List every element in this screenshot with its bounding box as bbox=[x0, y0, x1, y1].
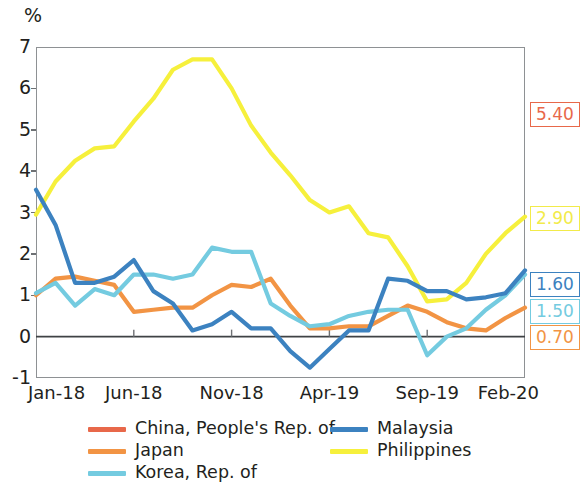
plot-area bbox=[36, 47, 525, 378]
legend-color-swatch bbox=[88, 427, 126, 432]
legend-color-swatch bbox=[330, 427, 368, 432]
chart-legend: China, People's Rep. ofJapanKorea, Rep. … bbox=[0, 418, 573, 483]
end-value-label: 5.40 bbox=[530, 102, 580, 127]
x-axis-tick-label: Jan-18 bbox=[28, 384, 85, 402]
series-line bbox=[36, 277, 525, 331]
legend-column-right: MalaysiaPhilippines bbox=[330, 418, 560, 462]
legend-item[interactable]: China, People's Rep. of bbox=[88, 418, 318, 440]
legend-item[interactable]: Japan bbox=[88, 440, 318, 462]
y-axis-tick-label: 1 bbox=[0, 285, 31, 304]
x-axis-tick-label: Sep-19 bbox=[396, 384, 459, 402]
series-line bbox=[36, 59, 525, 301]
legend-label: Korea, Rep. of bbox=[135, 464, 257, 482]
y-axis-tick-label: 2 bbox=[0, 244, 31, 263]
series-lines-svg bbox=[36, 47, 525, 378]
legend-color-swatch bbox=[330, 449, 368, 454]
legend-item[interactable]: Korea, Rep. of bbox=[88, 462, 318, 483]
end-value-label: 1.60 bbox=[530, 272, 580, 297]
legend-color-swatch bbox=[88, 471, 126, 476]
y-axis-tick-label: 4 bbox=[0, 161, 31, 180]
legend-label: Japan bbox=[135, 442, 184, 460]
y-axis-tick-label: 0 bbox=[0, 327, 31, 346]
y-axis-tick-label: 7 bbox=[0, 37, 31, 56]
y-axis-unit-label: % bbox=[24, 6, 42, 25]
series-line bbox=[36, 190, 525, 368]
y-axis-tick-label: 3 bbox=[0, 203, 31, 222]
x-axis-tick-label: Apr-19 bbox=[300, 384, 359, 402]
legend-label: Philippines bbox=[377, 442, 471, 460]
y-axis-tick-label: 6 bbox=[0, 78, 31, 97]
end-value-label: 2.90 bbox=[530, 206, 580, 231]
legend-label: Malaysia bbox=[377, 420, 453, 438]
legend-item[interactable]: Philippines bbox=[330, 440, 560, 462]
x-axis-tick-label: Nov-18 bbox=[200, 384, 264, 402]
legend-item[interactable]: Malaysia bbox=[330, 418, 560, 440]
end-value-label: 0.70 bbox=[530, 325, 580, 350]
legend-color-swatch bbox=[88, 449, 126, 454]
x-axis-tick-label: Jun-18 bbox=[105, 384, 163, 402]
legend-column-left: China, People's Rep. ofJapanKorea, Rep. … bbox=[88, 418, 318, 483]
end-value-label: 1.50 bbox=[530, 299, 580, 324]
x-axis-tick-label: Feb-20 bbox=[478, 384, 539, 402]
legend-label: China, People's Rep. of bbox=[135, 420, 335, 438]
y-axis-tick-label: 5 bbox=[0, 120, 31, 139]
y-axis-tick-label: -1 bbox=[0, 368, 31, 387]
